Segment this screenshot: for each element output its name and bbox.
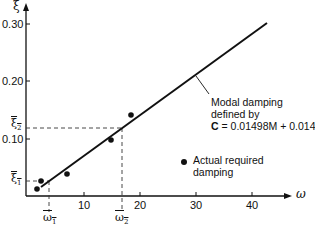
x-tick-30: 30 <box>190 199 202 211</box>
y-axis-label: ξ <box>13 0 20 12</box>
y-axis-arrow-icon <box>23 3 29 11</box>
x-axis-arrow-icon <box>284 193 292 199</box>
x-tick-40: 40 <box>246 199 258 211</box>
x-axis-label: ω <box>296 188 306 200</box>
x-tick-10: 10 <box>78 199 90 211</box>
legend-actual-damping: Actual required damping <box>193 154 264 178</box>
y-tick-010: 0.10 <box>2 133 23 145</box>
omega2-label: ω2 <box>115 212 128 228</box>
xi2-label: ξ2 <box>11 118 22 134</box>
annotation-pointer <box>196 76 209 94</box>
legend-dot-icon <box>181 159 187 165</box>
y-tick-020: 0.20 <box>2 75 23 87</box>
reference-lines <box>26 128 122 212</box>
modal-damping-annotation: Modal damping defined by C = 0.01498M + … <box>211 96 315 132</box>
x-tick-20: 20 <box>134 199 146 211</box>
y-tick-030: 0.30 <box>2 18 23 30</box>
omega1-label: ω1 <box>43 212 56 228</box>
xi1-label: ξ1 <box>11 173 22 189</box>
